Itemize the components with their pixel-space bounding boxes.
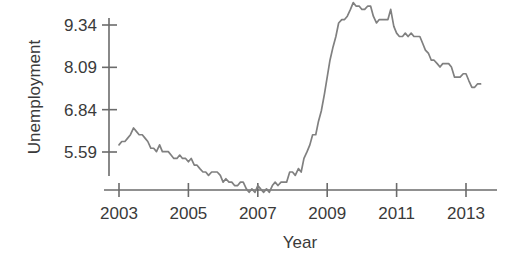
x-tick-label: 2003 <box>100 204 138 223</box>
x-tick-label: 2011 <box>378 204 415 223</box>
x-axis-group: 200320052007200920112013 <box>100 183 497 223</box>
x-tick-label: 2013 <box>447 204 485 223</box>
unemployment-series-line <box>119 3 481 193</box>
unemployment-line-chart: 5.596.848.099.34 20032005200720092011201… <box>0 0 509 257</box>
y-tick-label: 5.59 <box>64 143 97 162</box>
y-axis-title: Unemployment <box>25 40 44 155</box>
x-axis-title: Year <box>283 233 318 252</box>
y-tick-label: 9.34 <box>64 16 97 35</box>
y-axis-tick-labels: 5.596.848.099.34 <box>64 16 97 162</box>
x-tick-label: 2009 <box>308 204 346 223</box>
y-tick-label: 8.09 <box>64 58 97 77</box>
y-tick-label: 6.84 <box>64 101 97 120</box>
chart-canvas: 5.596.848.099.34 20032005200720092011201… <box>0 0 509 257</box>
x-tick-label: 2007 <box>239 204 277 223</box>
y-axis-group: 5.596.848.099.34 <box>64 16 117 176</box>
x-axis-tick-labels: 200320052007200920112013 <box>100 204 485 223</box>
x-tick-label: 2005 <box>169 204 207 223</box>
